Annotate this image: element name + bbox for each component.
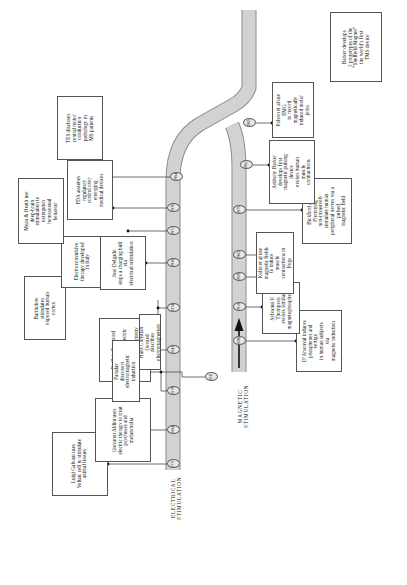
event-box-aldini[interactable]: Giovanni Aldini uses electric therapy to… [95, 398, 151, 462]
year-marker-1831[interactable]: 1831 [205, 372, 218, 381]
event-box-bartholow[interactable]: Bartholow stimulates exposed human corte… [24, 276, 66, 340]
year-marker-1843[interactable]: 1843 [167, 345, 180, 354]
diagram-canvas: ELECTRICAL STIMULATION MAGNETIC STIMULAT… [0, 0, 407, 585]
year-marker-1874[interactable]: 1874 [167, 303, 180, 312]
year-marker-1819[interactable]: 1819 [167, 386, 180, 395]
year-marker-1975[interactable]: 1975 [233, 205, 246, 214]
year-marker-1976[interactable]: 1976 [167, 203, 180, 212]
year-marker-1984[interactable]: 1984 [170, 172, 183, 181]
event-box-faraday[interactable]: Faraday discovers electromagnetic induct… [112, 340, 140, 402]
event-box-fda[interactable]: FDA assumes regulatory control over emer… [67, 160, 113, 220]
event-box-darsonval[interactable]: D’Arsonval induces phosphenes and vertig… [296, 310, 342, 372]
year-marker-1965[interactable]: 1965 [233, 250, 246, 259]
event-box-barker-sheffield-magnet[interactable]: Barker develops 5 prototypes of the “She… [330, 12, 382, 82]
event-box-moan-heath[interactable]: Moan & Heath use deep-brain stimulation … [18, 178, 64, 244]
event-box-polson[interactable]: Polson et al use EMG to record magnetica… [272, 82, 314, 138]
event-box-barker-first-device[interactable]: Anthony Barker develops first magnetic p… [269, 140, 315, 204]
year-marker-1804[interactable]: 1804 [167, 425, 180, 434]
event-box-delgado[interactable]: Jose Delgado stops a charging bull via e… [100, 236, 146, 290]
event-box-ect[interactable]: Electroconvulsive therapy developed in I… [61, 236, 105, 288]
year-marker-1959[interactable]: 1959 [233, 272, 246, 281]
year-marker-1982[interactable]: 1982 [240, 160, 253, 169]
event-box-oersted[interactable]: Hans Christian Oersted describes electro… [139, 314, 161, 370]
year-marker-1938[interactable]: 1938 [167, 258, 180, 267]
track-label-electrical: ELECTRICAL STIMULATION [158, 492, 194, 505]
event-box-kolin[interactable]: Kolin et al use magnetic fields to induc… [256, 232, 294, 294]
event-box-tes[interactable]: TES discloses central motor conduction p… [57, 96, 103, 160]
year-marker-1896[interactable]: 1896 [233, 336, 246, 345]
year-marker-1910[interactable]: 1910 [233, 302, 246, 311]
track-label-magnetic: MAGNETIC STIMULATION [225, 400, 261, 413]
year-marker-1771[interactable]: 1771 [167, 459, 180, 468]
year-marker-1972[interactable]: 1972 [167, 226, 180, 235]
year-marker-1985[interactable]: 1985 [243, 118, 256, 127]
